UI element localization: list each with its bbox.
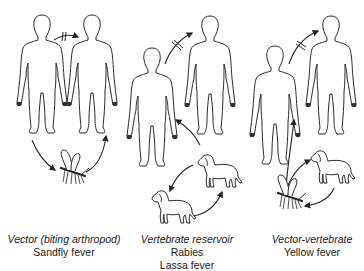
human-figure-icon xyxy=(16,15,67,133)
dog-icon xyxy=(152,191,196,223)
blocked-transmission-arrow xyxy=(165,33,192,64)
human-figure-icon xyxy=(126,48,177,166)
transmission-arrow xyxy=(305,188,334,206)
dog-icon xyxy=(198,155,242,187)
dog-icon xyxy=(311,151,355,183)
caption-vector-vertebrate: Vector-vertebrate Yellow fever xyxy=(262,233,362,259)
transmission-arrow xyxy=(170,165,193,191)
panel-vertebrate-reservoir xyxy=(126,16,242,223)
human-figure-icon xyxy=(66,15,117,133)
human-figure-icon xyxy=(249,46,300,164)
panel-title: Vector (biting arthropod) xyxy=(0,233,128,246)
panel-vector xyxy=(16,15,117,184)
disease-label: Yellow fever xyxy=(262,246,362,259)
disease-label: Sandfly fever xyxy=(0,246,128,259)
caption-vector: Vector (biting arthropod) Sandfly fever xyxy=(0,233,128,259)
transmission-arrow xyxy=(176,120,200,145)
disease-label: Lassa fever xyxy=(132,259,242,271)
panel-title: Vertebrate reservoir xyxy=(132,233,242,246)
panel-vector-vertebrate xyxy=(249,16,356,209)
caption-vertebrate-reservoir: Vertebrate reservoir Rabies Lassa fever xyxy=(132,233,242,271)
transmission-arrow xyxy=(32,140,55,170)
transmission-arrow xyxy=(193,192,222,216)
transmission-diagram xyxy=(0,0,364,271)
panel-title: Vector-vertebrate xyxy=(262,233,362,246)
transmission-arrow xyxy=(86,136,106,172)
mosquito-icon xyxy=(278,175,306,209)
human-figure-icon xyxy=(184,16,235,134)
mosquito-icon xyxy=(61,150,89,184)
disease-label: Rabies xyxy=(132,246,242,259)
blocked-transmission-arrow xyxy=(54,32,78,41)
